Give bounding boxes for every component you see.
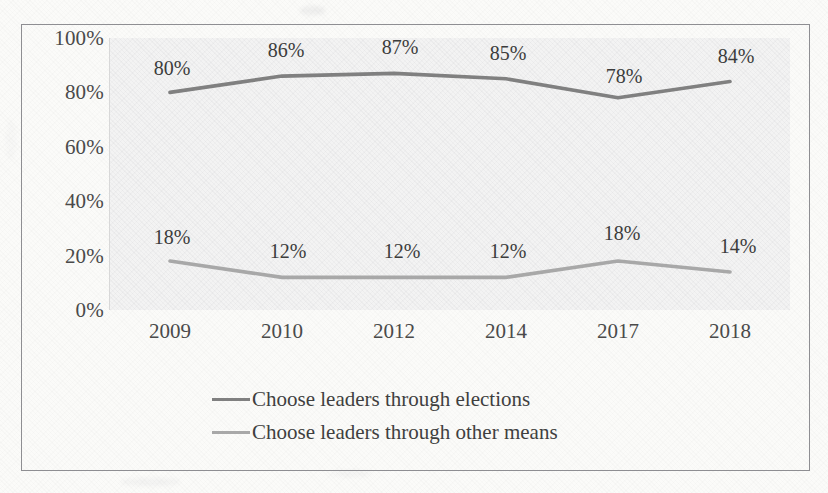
legend-label-other-means: Choose leaders through other means — [252, 422, 558, 443]
scan-artifact — [300, 6, 326, 15]
legend-swatch-elections — [212, 398, 250, 401]
legend-swatch-other-means — [212, 431, 250, 434]
x-axis-tick-labels: 200920102012201420172018 — [110, 321, 790, 355]
page-background: 0%20%40%60%80%100% 200920102012201420172… — [0, 0, 828, 493]
x-axis-tick-label: 2018 — [709, 321, 751, 342]
data-label: 18% — [604, 223, 641, 243]
data-label: 14% — [720, 236, 757, 256]
data-label: 78% — [606, 66, 643, 86]
x-axis-tick-label: 2017 — [597, 321, 639, 342]
chart-legend: Choose leaders through elections Choose … — [0, 383, 828, 449]
x-axis-tick-label: 2014 — [485, 321, 527, 342]
y-axis-tick-label: 40% — [12, 191, 104, 212]
y-axis-tick-label: 80% — [12, 82, 104, 103]
data-label: 80% — [154, 58, 191, 78]
x-axis-tick-label: 2010 — [261, 321, 303, 342]
scan-artifact — [330, 470, 372, 477]
data-label: 12% — [270, 241, 307, 261]
plot-area — [110, 38, 790, 310]
legend-item-elections[interactable]: Choose leaders through elections — [0, 383, 828, 416]
legend-label-elections: Choose leaders through elections — [252, 389, 530, 410]
y-axis-tick-label: 60% — [12, 137, 104, 158]
x-axis-tick-label: 2012 — [373, 321, 415, 342]
data-label: 87% — [382, 37, 419, 57]
y-axis-line — [109, 38, 110, 310]
data-label: 86% — [268, 40, 305, 60]
legend-item-other-means[interactable]: Choose leaders through other means — [0, 416, 828, 449]
y-axis-tick-label: 0% — [12, 300, 104, 321]
scan-artifact — [120, 478, 180, 486]
y-axis-tick-label: 100% — [12, 28, 104, 49]
data-label: 85% — [490, 43, 527, 63]
data-label: 18% — [154, 227, 191, 247]
data-label: 84% — [718, 46, 755, 66]
x-axis-tick-label: 2009 — [149, 321, 191, 342]
data-label: 12% — [384, 241, 421, 261]
y-axis-tick-label: 20% — [12, 246, 104, 267]
data-label: 12% — [490, 241, 527, 261]
